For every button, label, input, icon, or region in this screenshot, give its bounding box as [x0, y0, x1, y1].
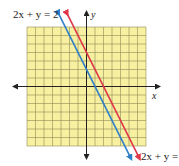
equation-label-top: 2x + y = 2 [13, 8, 58, 20]
x-axis-label: x [152, 90, 156, 101]
y-axis-label: y [91, 9, 95, 20]
coordinate-graph [0, 0, 179, 166]
equation-label-bottom: 2x + y = [141, 150, 178, 162]
